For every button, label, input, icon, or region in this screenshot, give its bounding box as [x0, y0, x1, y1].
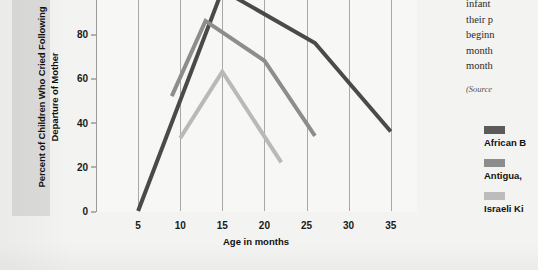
x-tick-label: 30 [329, 211, 369, 231]
body-text-line: month [466, 43, 538, 59]
chart-plot: 020406080100 5101520253035 Age in months [96, 0, 416, 211]
legend-swatch [484, 159, 505, 167]
legend-label: Antigua, [484, 170, 538, 181]
legend-label: Israeli Ki [484, 203, 538, 214]
x-axis-title: Age in months [96, 236, 416, 247]
figure-page: Percent of Children Who Cried Following … [0, 0, 538, 270]
legend-entry: African B [484, 126, 538, 148]
legend-swatch [484, 192, 505, 200]
body-text-line: their p [466, 12, 538, 28]
legend-entry: Antigua, [484, 159, 538, 181]
y-tick-label: 80 [50, 29, 96, 40]
y-tick-label: 20 [50, 161, 96, 172]
chart-legend: African BAntigua,Israeli Ki [484, 126, 538, 225]
series-line [180, 72, 281, 163]
x-tick-label: 20 [244, 211, 284, 231]
legend-swatch [484, 126, 505, 134]
x-tick-label: 15 [202, 211, 242, 231]
y-tick-label: 60 [50, 73, 96, 84]
body-text-line: beginn [466, 27, 538, 43]
y-axis-title-band: Percent of Children Who Cried Following … [12, 0, 50, 216]
series-lines [96, 0, 416, 211]
legend-label: African B [484, 137, 538, 148]
x-tick-label: 5 [118, 211, 158, 231]
x-tick-label: 25 [287, 211, 327, 231]
series-line [138, 0, 391, 211]
body-text-line: month [466, 58, 538, 74]
y-tick-label: 40 [50, 117, 96, 128]
x-tick-label: 35 [371, 211, 411, 231]
source-note: (Source [466, 84, 538, 94]
body-text: infanttheir pbeginnmonthmonth [466, 0, 538, 82]
legend-entry: Israeli Ki [484, 192, 538, 214]
y-tick-label: 0 [50, 206, 96, 217]
body-text-line: infant [466, 0, 538, 12]
x-tick-label: 10 [160, 211, 200, 231]
